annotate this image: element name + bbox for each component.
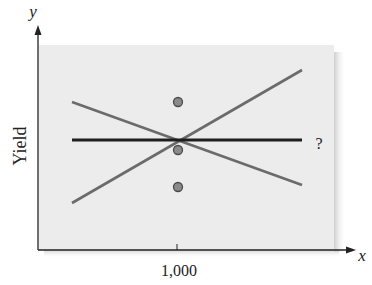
panel-shadow-right xyxy=(334,52,346,252)
question-annotation: ? xyxy=(315,135,322,152)
data-point-high xyxy=(174,98,183,107)
y-title-yield: Yield xyxy=(10,127,30,166)
x-tick-label: 1,000 xyxy=(161,262,197,279)
y-axis-arrow-icon xyxy=(35,25,42,35)
x-axis-label: x xyxy=(357,246,366,265)
y-axis-label: y xyxy=(27,2,37,21)
panel-shadow-bottom xyxy=(44,250,339,258)
chart-figure: y x Yield 1,000 ? xyxy=(0,0,372,285)
x-axis-arrow-icon xyxy=(346,247,356,254)
data-point-low xyxy=(174,183,183,192)
data-point-mid xyxy=(174,146,183,155)
